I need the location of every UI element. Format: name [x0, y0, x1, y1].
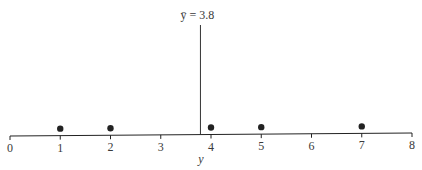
data-point	[359, 123, 365, 129]
tick-label: 6	[309, 139, 315, 153]
data-point	[57, 125, 63, 131]
tick-label: 5	[258, 139, 264, 153]
x-axis-ticks: 012345678	[7, 133, 415, 155]
mean-label: ȳ = 3.8	[180, 8, 214, 22]
tick-label: 8	[409, 138, 415, 152]
x-axis-title: y	[197, 152, 204, 166]
tick-label: 3	[158, 140, 164, 154]
data-points	[57, 123, 365, 132]
tick-label: 0	[7, 141, 13, 155]
data-point	[258, 124, 264, 130]
tick-label: 7	[359, 138, 365, 152]
tick-label: 2	[108, 140, 114, 154]
tick-label: 1	[57, 141, 63, 155]
data-point	[107, 125, 113, 131]
dot-plot: 012345678 ȳ = 3.8 y	[0, 0, 422, 170]
tick-label: 4	[208, 140, 214, 154]
data-point	[208, 124, 214, 130]
